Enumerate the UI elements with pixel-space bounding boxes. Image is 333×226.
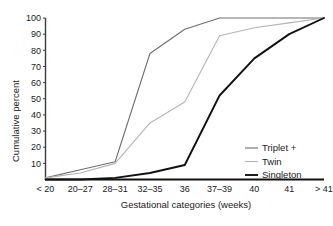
series-lines: [46, 18, 325, 180]
y-tick-label: 50: [31, 94, 41, 104]
x-tick-label: 36: [180, 184, 190, 194]
series-line-singleton: [46, 18, 325, 180]
x-tick-label: 40: [249, 184, 259, 194]
x-tick-label: 20–27: [68, 184, 93, 194]
y-tick-label: 60: [31, 78, 41, 88]
legend-label: Twin: [262, 156, 282, 167]
y-axis-title: Cumulative percent: [10, 80, 21, 162]
x-tick-label: > 41: [315, 184, 333, 194]
y-tick-label: 70: [31, 62, 41, 72]
x-tick-label: < 20: [37, 184, 55, 194]
x-tick-label: 32–35: [137, 184, 162, 194]
legend: Triplet +TwinSingleton: [245, 142, 302, 180]
y-tick-label: 100: [26, 13, 41, 23]
y-tick-label: 30: [31, 126, 41, 136]
y-tick-label: 40: [31, 110, 41, 120]
x-axis-title-group: Gestational categories (weeks): [121, 199, 251, 210]
legend-label: Singleton: [262, 169, 302, 180]
y-tick-label: 90: [31, 29, 41, 39]
chart-figure: Cumulative percent 102030405060708090100…: [0, 0, 333, 226]
series-line-twin: [46, 18, 325, 178]
cumulative-percent-line-chart: Cumulative percent 102030405060708090100…: [0, 0, 333, 226]
legend-label: Triplet +: [262, 142, 297, 153]
y-tick-label: 80: [31, 46, 41, 56]
series-line-triplet: [46, 18, 325, 178]
y-axis-title-group: Cumulative percent: [10, 80, 21, 162]
x-tick-label: 28–31: [103, 184, 128, 194]
y-tick-labels: 102030405060708090100: [26, 13, 46, 168]
y-tick-label: 20: [31, 142, 41, 152]
y-tick-label: 10: [31, 159, 41, 169]
x-axis-title: Gestational categories (weeks): [121, 199, 251, 210]
x-tick-label: 41: [284, 184, 294, 194]
x-tick-label: 37–39: [207, 184, 232, 194]
x-tick-labels: < 2020–2728–3132–353637–394041> 41: [37, 184, 333, 194]
